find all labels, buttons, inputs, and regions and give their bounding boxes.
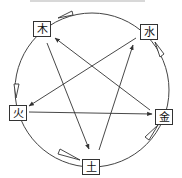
element-label: 土: [86, 162, 97, 173]
hollow-arrow-fire-to-earth-icon: [58, 149, 80, 160]
arrow-earth-to-water: [99, 45, 133, 150]
inner-star-lines: [29, 38, 152, 150]
element-box-earth: 土: [82, 159, 100, 175]
element-label: 金: [159, 112, 170, 123]
element-box-fire: 火: [9, 105, 27, 121]
element-label: 火: [13, 108, 24, 119]
element-box-water: 水: [140, 24, 158, 40]
arrow-water-to-fire: [29, 38, 136, 106]
element-label: 木: [37, 24, 48, 35]
element-box-metal: 金: [155, 109, 173, 125]
element-box-wood: 木: [33, 21, 51, 37]
element-label: 水: [144, 27, 155, 38]
hollow-arrow-metal-to-water-icon: [155, 42, 164, 57]
hollow-arrow-water-to-wood-icon: [58, 11, 73, 18]
arrow-fire-to-metal: [29, 112, 152, 114]
